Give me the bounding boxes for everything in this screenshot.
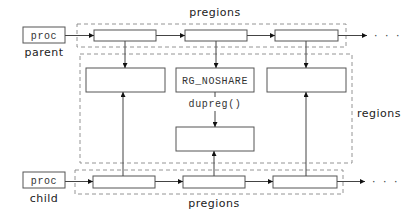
pregion-region-diagram: pregions proc parent · · · regions RG_NO… xyxy=(0,0,417,222)
regions-label: regions xyxy=(357,107,401,120)
child-pregion-3 xyxy=(273,176,337,188)
parent-pregion-2 xyxy=(185,30,247,41)
bottom-pregions-label: pregions xyxy=(188,197,240,210)
parent-proc-label: proc xyxy=(31,31,57,42)
parent-pregion-3 xyxy=(275,30,338,41)
continuation-dots: · · · xyxy=(372,175,399,188)
child-pregion-2 xyxy=(183,176,245,188)
dupreg-label: dupreg() xyxy=(189,99,242,110)
top-pregions-label: pregions xyxy=(189,6,241,19)
region-box-3 xyxy=(267,68,346,92)
child-pregion-1 xyxy=(93,176,155,188)
copied-region-box xyxy=(176,127,254,151)
region-box-1 xyxy=(86,68,165,92)
region-noshare-label: RG_NOSHARE xyxy=(182,76,248,87)
parent-caption: parent xyxy=(24,46,63,59)
continuation-dots: · · · xyxy=(374,29,401,42)
child-proc-label: proc xyxy=(31,176,57,187)
child-caption: child xyxy=(30,192,59,205)
parent-pregion-1 xyxy=(94,30,156,41)
